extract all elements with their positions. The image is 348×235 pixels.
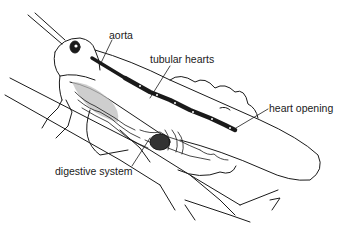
label-aorta: aorta bbox=[109, 30, 133, 41]
organ-cluster bbox=[150, 130, 183, 154]
grasshopper-diagram bbox=[0, 0, 348, 235]
label-digestive-system: digestive system bbox=[55, 166, 133, 177]
wings bbox=[170, 76, 258, 175]
leader-tubular-hearts bbox=[150, 66, 170, 98]
label-heart-opening: heart opening bbox=[269, 103, 333, 114]
antennae bbox=[28, 13, 65, 44]
label-tubular-hearts: tubular hearts bbox=[150, 54, 214, 65]
